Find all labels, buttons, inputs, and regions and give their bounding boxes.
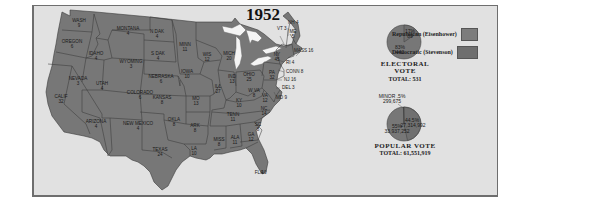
- svg-text:10: 10: [191, 151, 197, 156]
- svg-text:8: 8: [218, 142, 221, 147]
- svg-text:8: 8: [257, 127, 260, 132]
- svg-text:10: 10: [261, 170, 267, 175]
- svg-text:RI 4: RI 4: [286, 60, 295, 65]
- electoral-vote-caption: ELECTORAL VOTE TOTAL: 531: [374, 61, 436, 82]
- svg-text:11: 11: [231, 117, 236, 122]
- svg-text:12: 12: [248, 137, 254, 142]
- legend-swatch-democratic: [457, 46, 478, 59]
- svg-text:CONN 8: CONN 8: [286, 69, 304, 74]
- svg-text:14: 14: [261, 111, 267, 116]
- svg-text:6: 6: [71, 44, 74, 49]
- svg-text:24: 24: [157, 152, 163, 157]
- popular-vote-total: TOTAL: 61,551,919: [368, 150, 442, 156]
- svg-text:13: 13: [229, 79, 235, 84]
- svg-text:27: 27: [215, 89, 221, 94]
- legend-label-democratic: Democratic (Stevenson): [392, 49, 453, 55]
- svg-text:4: 4: [157, 56, 160, 61]
- map-title: 1952: [246, 5, 280, 25]
- svg-text:32: 32: [58, 99, 64, 104]
- us-electoral-map: WASH9 OREGON6 CALIF32 IDAHO4 NEVADA3 MON…: [0, 0, 609, 210]
- legend-item-republican: Republican (Eisenhower): [392, 26, 478, 42]
- svg-text:MASS 16: MASS 16: [294, 48, 314, 53]
- svg-text:10: 10: [184, 74, 190, 79]
- svg-text:4: 4: [101, 86, 104, 91]
- svg-text:25: 25: [246, 77, 252, 82]
- svg-text:8: 8: [253, 93, 256, 98]
- svg-text:4: 4: [137, 126, 140, 131]
- svg-text:32: 32: [269, 75, 275, 80]
- svg-text:12: 12: [204, 57, 210, 62]
- svg-text:8: 8: [161, 100, 164, 105]
- svg-text:VT 3: VT 3: [277, 26, 287, 31]
- svg-text:4: 4: [127, 31, 130, 36]
- svg-text:4: 4: [95, 56, 98, 61]
- legend: Republican (Eisenhower) Democratic (Stev…: [392, 26, 478, 62]
- svg-text:20: 20: [226, 56, 232, 61]
- svg-text:9: 9: [78, 23, 81, 28]
- svg-text:11: 11: [233, 140, 238, 145]
- legend-label-republican: Republican (Eisenhower): [392, 31, 457, 37]
- popular-vote-title: POPULAR VOTE: [368, 143, 442, 150]
- svg-text:8: 8: [173, 122, 176, 127]
- svg-text:3: 3: [130, 64, 133, 69]
- svg-text:6: 6: [160, 79, 163, 84]
- svg-text:3: 3: [77, 81, 80, 86]
- svg-text:NH 4: NH 4: [288, 20, 299, 25]
- svg-text:5: 5: [292, 34, 295, 39]
- svg-text:299,675: 299,675: [383, 98, 401, 104]
- svg-text:12: 12: [262, 98, 268, 103]
- svg-text:4: 4: [95, 124, 98, 129]
- popular-vote-caption: POPULAR VOTE TOTAL: 61,551,919: [368, 143, 442, 157]
- electoral-vote-title: ELECTORAL VOTE: [374, 61, 436, 76]
- svg-text:DEL 3: DEL 3: [282, 85, 295, 90]
- popular-vote-pie: 44.5% 27,314,992 55% 33,937,252 MINOR .5…: [379, 93, 426, 141]
- svg-text:13: 13: [193, 101, 199, 106]
- svg-text:10: 10: [236, 103, 242, 108]
- electoral-vote-total: TOTAL: 531: [374, 76, 436, 82]
- svg-text:6: 6: [139, 95, 142, 100]
- svg-text:8: 8: [194, 128, 197, 133]
- legend-item-democratic: Democratic (Stevenson): [392, 44, 478, 60]
- svg-text:MD 9: MD 9: [276, 95, 287, 100]
- svg-text:4: 4: [156, 34, 159, 39]
- svg-text:45: 45: [274, 57, 280, 62]
- svg-text:33,937,252: 33,937,252: [384, 128, 409, 134]
- svg-text:11: 11: [183, 47, 188, 52]
- legend-swatch-republican: [461, 28, 478, 41]
- svg-text:NJ 16: NJ 16: [284, 77, 296, 82]
